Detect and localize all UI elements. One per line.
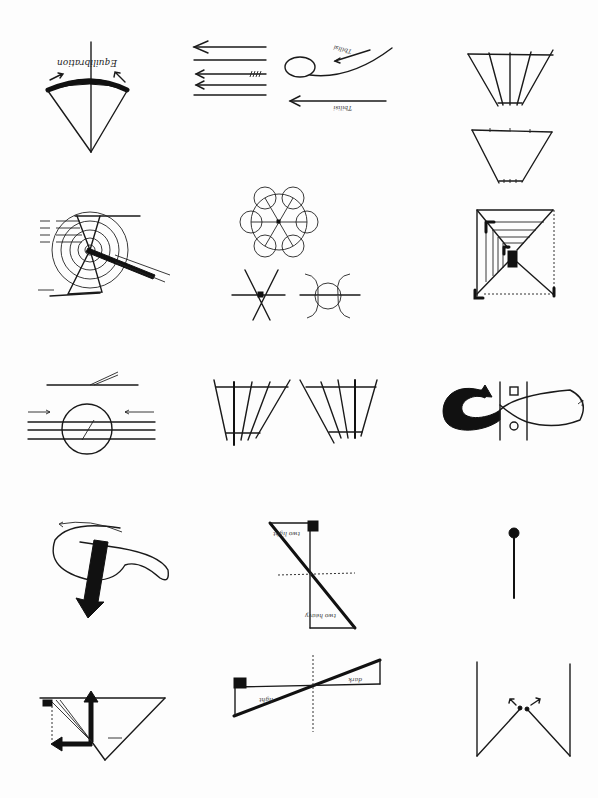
concentric-target-diagram (20, 190, 210, 320)
infinity-loop-diagram (430, 360, 590, 470)
six-circle-rosette-diagram (210, 170, 380, 330)
hourglass-balance-svg: two light two heavy (250, 510, 370, 640)
dark-label: dark (348, 677, 362, 684)
spiral-arrow-svg (30, 510, 200, 620)
perspective-corridor-svg (450, 190, 580, 310)
concentric-target-svg (20, 190, 210, 320)
parallel-arrows-diagram: Tbilisi Tbilisi (180, 20, 420, 150)
six-circle-rosette-svg (210, 170, 380, 330)
infinity-loop-svg (430, 360, 590, 470)
perspective-corridor-diagram (450, 190, 580, 310)
mirrored-trapezoids-diagram (200, 370, 400, 470)
seesaw-lever-diagram: light dark (220, 650, 390, 740)
w-channel-diagram (460, 650, 580, 770)
two-light-label: two light (272, 530, 300, 538)
arrow-lower-label: Tbilisi (333, 105, 352, 112)
equilibration-fan-svg: Equilibration (0, 0, 200, 170)
circle-on-lines-svg (20, 360, 190, 480)
spiral-arrow-diagram (30, 510, 200, 620)
hourglass-balance-diagram: two light two heavy (250, 510, 370, 640)
seesaw-lever-svg: light dark (220, 650, 390, 740)
w-channel-svg (460, 650, 580, 770)
equilibration-fan-diagram: Equilibration (0, 0, 200, 170)
force-triangle-diagram (30, 680, 200, 780)
mirrored-trapezoids-svg (200, 370, 400, 470)
two-heavy-label: two heavy (305, 612, 336, 620)
pin-stick-svg (460, 510, 570, 610)
light-label: light (258, 696, 273, 704)
force-triangle-svg (30, 680, 200, 780)
pin-stick-diagram (460, 510, 570, 610)
trapezoid-pair-diagram (440, 30, 590, 200)
equilibration-label: Equilibration (57, 58, 118, 68)
parallel-arrows-svg: Tbilisi Tbilisi (180, 20, 420, 150)
arrow-upper-label: Tbilisi (332, 44, 352, 56)
circle-on-lines-diagram (20, 360, 190, 480)
trapezoid-pair-svg (440, 30, 590, 200)
